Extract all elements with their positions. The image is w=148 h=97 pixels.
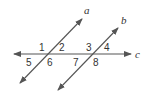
angle-label-1: 1 (39, 42, 45, 53)
line-label-c: c (135, 48, 140, 60)
angle-label-4: 4 (104, 42, 110, 53)
line-label-a: a (84, 4, 90, 16)
angle-label-2: 2 (59, 42, 65, 53)
angle-label-6: 6 (47, 57, 53, 68)
angle-label-8: 8 (93, 57, 99, 68)
line-b (58, 28, 118, 90)
line-a (20, 19, 82, 83)
angle-label-5: 5 (26, 57, 32, 68)
angle-label-3: 3 (86, 42, 92, 53)
line-label-b: b (121, 14, 127, 26)
angle-label-7: 7 (73, 57, 79, 68)
angle-diagram: a b c 1 2 3 4 5 6 7 8 (0, 0, 148, 97)
